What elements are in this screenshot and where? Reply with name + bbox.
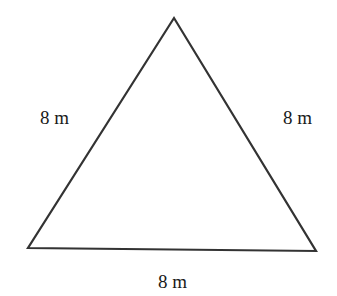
triangle-shape [0, 0, 337, 296]
right-side-label: 8 m [283, 108, 312, 127]
triangle-diagram: 8 m 8 m 8 m [0, 0, 337, 296]
left-side-label: 8 m [40, 108, 69, 127]
bottom-side-label: 8 m [158, 272, 187, 291]
